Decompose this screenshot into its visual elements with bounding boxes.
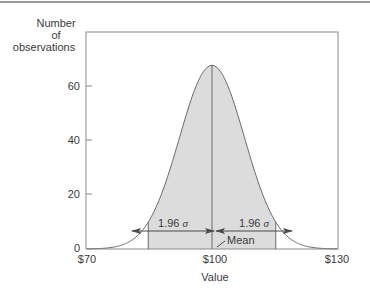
y-axis-label-line2: of — [51, 29, 61, 41]
x-tick-label-70: $70 — [78, 253, 96, 265]
y-axis-label-line3: observations — [13, 41, 76, 53]
x-tick-label-130: $130 — [325, 253, 349, 265]
mean-label: Mean — [227, 234, 255, 246]
x-tick-label-100: $100 — [203, 253, 227, 265]
normal-distribution-chart: Number of observations 60 40 20 0 $70 $1… — [0, 0, 370, 298]
left-sigma-label: 1.96 σ — [158, 217, 188, 229]
y-tick-label-60: 60 — [68, 80, 80, 92]
x-axis-label: Value — [201, 271, 228, 283]
right-sigma-label: 1.96 σ — [239, 217, 269, 229]
y-axis-label-line1: Number — [36, 17, 75, 29]
y-tick-label-40: 40 — [68, 134, 80, 146]
y-tick-label-20: 20 — [68, 188, 80, 200]
